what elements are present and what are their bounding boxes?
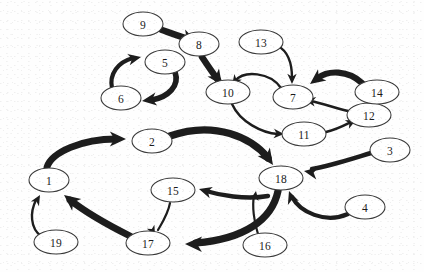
node-label: 14 — [371, 87, 383, 99]
graph-node-13[interactable]: 13 — [239, 30, 283, 54]
graph-node-17[interactable]: 17 — [126, 231, 170, 255]
edge-18-to-15 — [197, 183, 268, 198]
graph-node-5[interactable]: 5 — [145, 50, 185, 74]
graph-node-2[interactable]: 2 — [132, 129, 172, 153]
edge-line — [32, 200, 41, 236]
edge-line — [111, 58, 133, 88]
graph-node-6[interactable]: 6 — [101, 86, 141, 110]
edge-6-to-5 — [111, 51, 142, 88]
graph-node-16[interactable]: 16 — [243, 233, 287, 257]
edge-line — [318, 73, 362, 83]
node-label: 4 — [362, 202, 368, 214]
edge-line — [47, 139, 116, 167]
node-label: 5 — [162, 57, 168, 69]
graph-node-12[interactable]: 12 — [347, 103, 391, 127]
graph-node-14[interactable]: 14 — [355, 80, 399, 104]
node-label: 12 — [363, 110, 375, 122]
edge-line — [312, 153, 371, 169]
edge-line — [70, 200, 130, 236]
graph-node-10[interactable]: 10 — [206, 80, 250, 104]
node-label: 9 — [140, 19, 146, 31]
graph-node-11[interactable]: 11 — [282, 122, 326, 146]
graph-node-7[interactable]: 7 — [273, 85, 313, 109]
node-label: 8 — [196, 39, 202, 51]
node-label: 2 — [149, 136, 155, 148]
node-label: 19 — [50, 237, 62, 249]
edge-line — [152, 72, 176, 100]
node-label: 3 — [387, 145, 393, 157]
graph-svg: 12345678910111213141516171819 — [0, 0, 424, 272]
edge-5-to-6 — [141, 72, 176, 108]
graph-node-19[interactable]: 19 — [34, 230, 78, 254]
graph-node-1[interactable]: 1 — [29, 168, 69, 192]
edge-2-to-18 — [170, 130, 279, 169]
edge-line — [311, 101, 348, 111]
node-label: 11 — [298, 129, 310, 141]
node-label: 15 — [167, 185, 179, 197]
edge-3-to-18 — [303, 153, 371, 180]
node-label: 7 — [290, 92, 296, 104]
graph-node-3[interactable]: 3 — [370, 138, 410, 162]
edge-1-to-2 — [47, 132, 126, 167]
edge-13-to-7 — [278, 46, 297, 84]
node-label: 6 — [118, 93, 124, 105]
graph-canvas: 12345678910111213141516171819 — [0, 0, 424, 272]
edge-19-to-1 — [31, 193, 44, 236]
graph-node-15[interactable]: 15 — [151, 178, 195, 202]
node-label: 10 — [222, 87, 234, 99]
edge-line — [206, 191, 268, 197]
node-label: 1 — [46, 175, 52, 187]
edge-4-to-18 — [284, 189, 348, 218]
edge-line — [158, 203, 170, 230]
node-label: 13 — [255, 37, 267, 49]
edge-line — [170, 130, 268, 158]
edge-14-to-7 — [306, 69, 362, 89]
node-label: 17 — [142, 238, 154, 250]
node-label: 16 — [259, 240, 271, 252]
graph-node-8[interactable]: 8 — [179, 32, 219, 56]
node-label: 18 — [275, 173, 287, 185]
edge-line — [232, 104, 278, 134]
edge-line — [278, 46, 292, 78]
edge-17-to-1 — [59, 189, 130, 236]
edge-line — [292, 197, 348, 218]
arrowhead-icon — [31, 193, 44, 207]
graph-node-4[interactable]: 4 — [345, 195, 385, 219]
edge-line — [326, 122, 351, 132]
graph-node-18[interactable]: 18 — [259, 166, 303, 190]
graph-node-9[interactable]: 9 — [123, 12, 163, 36]
